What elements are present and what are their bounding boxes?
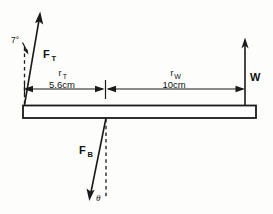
dim-rt-value: 5.6cm [49, 79, 75, 90]
diagram-canvas: F T 7° W F B θ [0, 0, 273, 214]
dimension-r-tension-group: r T 5.6cm [24, 68, 105, 95]
force-bone-group: F B θ [79, 118, 106, 203]
horizontal-beam [23, 106, 256, 119]
dim-rw-arrowhead-right [236, 86, 246, 92]
dim-rw-symbol: r [171, 68, 174, 78]
force-weight-group: W [241, 38, 261, 106]
bone-angle-label: θ [96, 193, 101, 203]
force-bone-label: F [79, 144, 86, 156]
dim-rt-symbol-wrap: r [59, 68, 62, 78]
dim-rw-arrowhead-left [107, 86, 117, 92]
force-tension-subscript: T [52, 54, 57, 63]
dim-rt-symbol: r [59, 68, 62, 78]
force-bone-subscript: B [88, 150, 94, 159]
dim-rw-symbol-wrap: r [171, 68, 174, 78]
free-body-diagram: F T 7° W F B θ [0, 0, 273, 214]
dimension-r-weight-group: r W 10cm [107, 68, 246, 92]
force-tension-group: F T 7° [11, 12, 57, 106]
bone-arrow-shaft [91, 118, 106, 193]
tension-arrow-shaft [25, 19, 40, 105]
force-weight-label: W [250, 71, 261, 83]
dim-rt-arrowhead-right [95, 86, 105, 92]
dim-rw-value: 10cm [162, 79, 185, 90]
force-tension-label: F [43, 48, 50, 60]
tension-angle-label: 7° [11, 35, 19, 45]
